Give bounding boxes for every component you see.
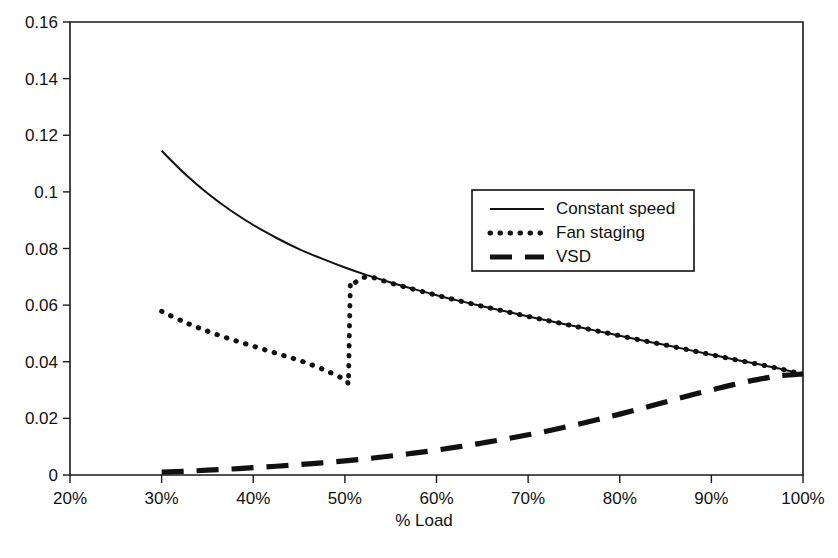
legend-label-fan-staging: Fan staging xyxy=(556,223,645,242)
x-tick-label: 30% xyxy=(145,489,179,508)
x-tick-label: 40% xyxy=(236,489,270,508)
legend-label-constant-speed: Constant speed xyxy=(556,199,675,218)
x-tick-label: 90% xyxy=(694,489,728,508)
series-line-vsd xyxy=(162,374,803,472)
chart-legend: Constant speedFan stagingVSD xyxy=(472,190,694,271)
x-tick-label: 60% xyxy=(419,489,453,508)
x-axis-ticks: 20%30%40%50%60%70%80%90%100% xyxy=(53,475,825,508)
x-tick-label: 100% xyxy=(781,489,824,508)
chart-figure: 00.020.040.060.080.10.120.140.16 20%30%4… xyxy=(0,0,838,558)
x-axis-title: % Load xyxy=(395,511,453,530)
series-line-fan-staging xyxy=(162,277,803,384)
x-tick-label: 70% xyxy=(511,489,545,508)
y-axis-ticks: 00.020.040.060.080.10.120.140.16 xyxy=(25,13,70,485)
x-tick-label: 20% xyxy=(53,489,87,508)
legend-label-vsd: VSD xyxy=(556,247,591,266)
y-tick-label: 0.14 xyxy=(25,70,58,89)
y-tick-label: 0.06 xyxy=(25,296,58,315)
y-tick-label: 0.16 xyxy=(25,13,58,32)
x-tick-label: 80% xyxy=(603,489,637,508)
y-tick-label: 0.08 xyxy=(25,240,58,259)
y-tick-label: 0 xyxy=(49,466,58,485)
y-tick-label: 0.02 xyxy=(25,409,58,428)
x-tick-label: 50% xyxy=(328,489,362,508)
line-chart: 00.020.040.060.080.10.120.140.16 20%30%4… xyxy=(0,0,838,558)
y-tick-label: 0.1 xyxy=(34,183,58,202)
y-tick-label: 0.12 xyxy=(25,126,58,145)
y-tick-label: 0.04 xyxy=(25,353,58,372)
